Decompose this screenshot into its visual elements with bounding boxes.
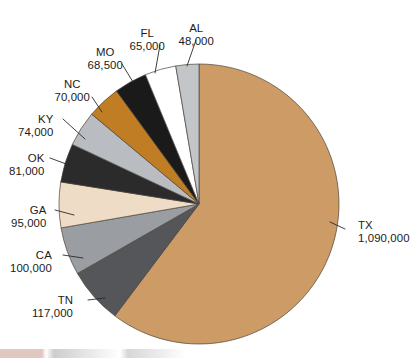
slice-label-ga: GA95,000 — [11, 204, 46, 230]
slice-label-fl: FL65,000 — [130, 27, 165, 53]
slice-label-ky: KY74,000 — [18, 113, 53, 139]
slice-label-value-mo: 68,500 — [88, 59, 123, 72]
slice-label-state-tx: TX — [358, 219, 410, 232]
slice-label-state-nc: NC — [55, 78, 90, 91]
slice-label-value-tn: 117,000 — [32, 307, 73, 320]
slice-label-value-ca: 100,000 — [10, 262, 52, 275]
slice-label-al: AL48,000 — [179, 22, 214, 48]
slice-label-nc: NC70,000 — [55, 78, 90, 104]
slice-label-state-ca: CA — [10, 249, 52, 262]
page-footer-artifact — [0, 349, 190, 358]
slice-label-tn: TN117,000 — [32, 294, 73, 320]
slice-label-state-ok: OK — [9, 152, 44, 165]
slice-label-value-ga: 95,000 — [11, 217, 46, 230]
slice-label-state-fl: FL — [130, 27, 165, 40]
slice-label-value-ok: 81,000 — [9, 165, 44, 178]
slice-label-mo: MO68,500 — [88, 46, 123, 72]
slice-label-state-mo: MO — [88, 46, 123, 59]
slice-label-state-tn: TN — [32, 294, 73, 307]
slice-label-value-al: 48,000 — [179, 35, 214, 48]
slice-label-value-ky: 74,000 — [18, 126, 53, 139]
slice-label-tx: TX1,090,000 — [358, 219, 410, 245]
pie-slices-group — [59, 64, 339, 344]
slice-label-value-fl: 65,000 — [130, 40, 165, 53]
leader-line-mo — [122, 64, 133, 82]
slice-label-state-ky: KY — [18, 113, 53, 126]
slice-label-state-al: AL — [179, 22, 214, 35]
slice-label-value-nc: 70,000 — [55, 91, 90, 104]
slice-label-state-ga: GA — [11, 204, 46, 217]
slice-label-value-tx: 1,090,000 — [358, 232, 410, 245]
slice-label-ca: CA100,000 — [10, 249, 52, 275]
slice-label-ok: OK81,000 — [9, 152, 44, 178]
